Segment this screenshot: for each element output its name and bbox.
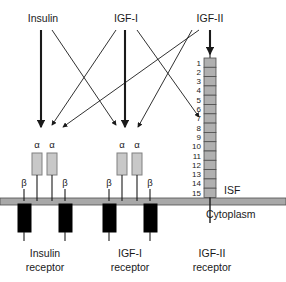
domain-number-1: 1 xyxy=(197,59,202,68)
igf2-receptor: 1 2 3 4 5 6 7 8 9 10 11 xyxy=(192,54,232,273)
compartment-label-cytoplasm: Cytoplasm xyxy=(206,208,256,220)
beta-subunit-right xyxy=(59,204,72,232)
igf2-receptor-domain-column: 1 2 3 4 5 6 7 8 9 10 11 xyxy=(192,58,216,198)
domain-box-3 xyxy=(204,77,216,86)
ligand-label-insulin: Insulin xyxy=(28,12,59,24)
domain-box-2 xyxy=(204,67,216,76)
domain-number-2: 2 xyxy=(197,68,202,77)
domain-box-9 xyxy=(204,132,216,141)
domain-box-5 xyxy=(204,95,216,104)
alpha-subunit-right xyxy=(47,153,57,175)
compartment-label-isf: ISF xyxy=(224,184,240,196)
ligand-label-igf1: IGF-I xyxy=(114,12,138,24)
domain-number-14: 14 xyxy=(192,179,201,188)
diagram-canvas: Insulin IGF-I IGF-II ISF Cytoplasm α α xyxy=(0,0,286,282)
beta-subunit-label-right: β xyxy=(62,177,68,188)
receptor-label-line1: Insulin xyxy=(30,247,61,259)
domain-box-13 xyxy=(204,170,216,179)
igf-insulin-receptor-diagram: Insulin IGF-I IGF-II ISF Cytoplasm α α xyxy=(0,0,286,282)
igf1-receptor: α α β β IGF-I receptor xyxy=(103,139,157,273)
domain-box-4 xyxy=(204,86,216,95)
alpha-subunit-right xyxy=(132,153,142,175)
plasma-membrane xyxy=(0,198,286,205)
domain-number-7: 7 xyxy=(197,114,202,123)
domain-number-13: 13 xyxy=(192,170,201,179)
alpha-subunit-left xyxy=(117,153,127,175)
domain-box-10 xyxy=(204,142,216,151)
domain-number-9: 9 xyxy=(197,133,202,142)
domain-box-14 xyxy=(204,179,216,188)
ligand-label-igf2: IGF-II xyxy=(197,12,224,24)
domain-box-6 xyxy=(204,105,216,114)
domain-number-11: 11 xyxy=(193,152,202,161)
receptor-label-line2: receptor xyxy=(26,261,65,273)
domain-number-8: 8 xyxy=(197,124,202,133)
domain-box-8 xyxy=(204,123,216,132)
domain-number-12: 12 xyxy=(192,161,201,170)
receptor-label-line2: receptor xyxy=(193,261,232,273)
receptor-label-line1: IGF-I xyxy=(118,247,142,259)
domain-number-3: 3 xyxy=(197,77,202,86)
alpha-subunit-label-right: α xyxy=(49,139,55,150)
insulin-receptor: α α β β Insulin receptor xyxy=(18,139,72,273)
domain-box-1 xyxy=(204,58,216,67)
alpha-subunit-label-left: α xyxy=(34,139,40,150)
beta-subunit-right xyxy=(144,204,157,232)
beta-subunit-label-left: β xyxy=(106,177,112,188)
domain-number-10: 10 xyxy=(192,142,201,151)
domain-box-11 xyxy=(204,151,216,160)
domain-box-12 xyxy=(204,160,216,169)
alpha-subunit-label-left: α xyxy=(119,139,125,150)
domain-number-4: 4 xyxy=(197,86,202,95)
domain-number-6: 6 xyxy=(197,105,202,114)
alpha-subunit-left xyxy=(32,153,42,175)
binding-arrow-igf2-to-igf1-receptor xyxy=(138,30,192,127)
domain-box-15 xyxy=(204,188,216,197)
domain-box-7 xyxy=(204,114,216,123)
receptor-label-line2: receptor xyxy=(111,261,150,273)
beta-subunit-left xyxy=(18,204,31,232)
alpha-subunit-label-right: α xyxy=(134,139,140,150)
domain-number-15: 15 xyxy=(192,189,201,198)
receptor-label-line1: IGF-II xyxy=(199,247,226,259)
beta-subunit-label-left: β xyxy=(21,177,27,188)
beta-subunit-left xyxy=(103,204,116,232)
domain-number-5: 5 xyxy=(197,96,202,105)
beta-subunit-label-right: β xyxy=(147,177,153,188)
